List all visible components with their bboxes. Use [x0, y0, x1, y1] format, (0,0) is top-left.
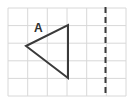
- reflection-figure: A: [0, 0, 134, 104]
- figure-canvas: A: [0, 0, 134, 104]
- triangle-a-label: A: [34, 21, 43, 35]
